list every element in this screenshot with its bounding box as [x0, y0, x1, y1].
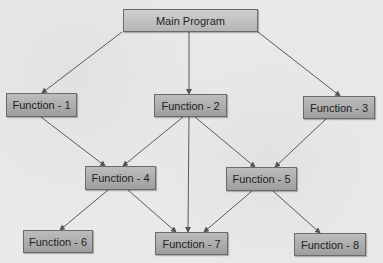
node-label: Main Program	[156, 15, 225, 27]
node-f6: Function - 6	[23, 230, 93, 253]
edge-f4-to-f6	[60, 190, 108, 230]
edge-f1-to-f4	[41, 117, 105, 166]
edge-f4-to-f7	[128, 190, 176, 232]
node-f4: Function - 4	[85, 166, 156, 190]
node-label: Function - 6	[29, 236, 87, 248]
edge-f2-to-f4	[123, 117, 183, 166]
node-f3: Function - 3	[303, 96, 375, 119]
edge-f3-to-f5	[275, 119, 326, 167]
node-main: Main Program	[123, 9, 258, 32]
node-label: Function - 4	[91, 172, 149, 184]
edge-main-to-f3	[258, 32, 340, 96]
node-f5: Function - 5	[226, 167, 297, 191]
node-label: Function - 5	[232, 173, 290, 185]
node-label: Function - 7	[162, 238, 220, 250]
node-f7: Function - 7	[155, 232, 228, 255]
edge-f5-to-f8	[273, 191, 320, 233]
edge-f2-to-f5	[195, 117, 255, 167]
edge-main-to-f1	[42, 32, 122, 93]
node-label: Function - 1	[12, 99, 70, 111]
node-f1: Function - 1	[6, 93, 77, 117]
node-f8: Function - 8	[294, 233, 366, 256]
node-label: Function - 8	[301, 239, 359, 251]
node-label: Function - 3	[310, 102, 368, 114]
node-f2: Function - 2	[154, 94, 227, 117]
edges-layer	[0, 0, 383, 263]
edge-f5-to-f7	[204, 191, 252, 232]
edge-f2-to-f7	[188, 117, 189, 232]
node-label: Function - 2	[161, 100, 219, 112]
